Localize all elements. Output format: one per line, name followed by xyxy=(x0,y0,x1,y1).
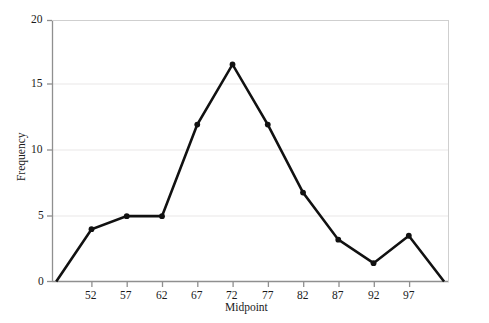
x-tick-label-62: 62 xyxy=(156,290,168,302)
x-tick-marks xyxy=(92,282,410,287)
x-tick-label-92: 92 xyxy=(368,290,380,302)
x-tick-label-67: 67 xyxy=(191,290,203,302)
y-tick-label-15: 15 xyxy=(31,78,43,90)
x-tick-label-97: 97 xyxy=(403,290,415,302)
x-tick-label-57: 57 xyxy=(120,290,132,302)
frequency-polygon-chart: 0 5 10 15 20 52 57 62 67 72 77 82 87 92 … xyxy=(0,0,489,323)
y-tick-label-5: 5 xyxy=(38,210,44,222)
data-point xyxy=(89,226,95,232)
data-point xyxy=(335,237,341,243)
data-point xyxy=(371,260,377,266)
x-tick-label-77: 77 xyxy=(262,290,274,302)
x-tick-label-87: 87 xyxy=(332,290,344,302)
x-tick-label-52: 52 xyxy=(85,290,97,302)
data-point xyxy=(230,62,236,68)
chart-canvas xyxy=(0,0,489,323)
data-point xyxy=(406,233,412,239)
y-tick-label-10: 10 xyxy=(31,144,43,156)
x-tick-label-82: 82 xyxy=(297,290,309,302)
x-axis-title: Midpoint xyxy=(225,302,268,314)
data-point xyxy=(124,213,130,219)
x-tick-label-72: 72 xyxy=(226,290,238,302)
data-point xyxy=(265,122,271,128)
y-tick-marks xyxy=(47,21,52,282)
y-tick-label-0: 0 xyxy=(38,276,44,288)
data-point xyxy=(194,122,200,128)
plot-background xyxy=(52,20,449,282)
data-point xyxy=(300,190,306,196)
y-axis-title-text: Frequency xyxy=(16,112,28,202)
y-axis-title: Frequency xyxy=(14,112,30,202)
data-point xyxy=(159,213,165,219)
y-tick-label-20: 20 xyxy=(31,14,43,26)
